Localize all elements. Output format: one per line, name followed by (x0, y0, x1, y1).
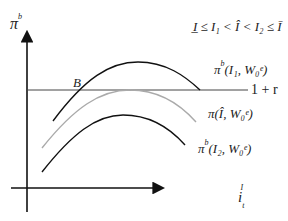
condition-text: I̲ ≤ I₁ < Î < I₂ ≤ Ī (193, 20, 282, 33)
x-axis-label: itI (238, 190, 247, 208)
y-axis-label: πb (10, 16, 22, 32)
curve-I2-label: πb(I₂, W₀ᵉ) (198, 142, 251, 155)
curve-I1-label: πb(I₁, W₀ᵉ) (214, 63, 267, 76)
curve-Ihat (42, 90, 196, 148)
curve-Ihat-label: π(Î, W₀ᵉ) (208, 107, 253, 120)
hline-label: 1 + r (251, 83, 278, 97)
point-b-label: B (73, 76, 81, 89)
